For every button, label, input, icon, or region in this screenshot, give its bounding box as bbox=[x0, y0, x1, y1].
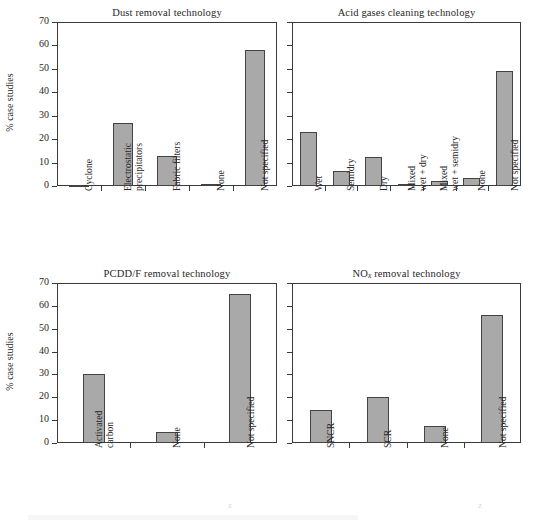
x-tick-mark bbox=[488, 186, 489, 191]
y-tick-mark bbox=[52, 116, 57, 117]
x-tick-mark bbox=[325, 186, 326, 191]
scan-artifact-band bbox=[28, 515, 358, 520]
y-tick-mark bbox=[287, 306, 292, 307]
y-tick-mark bbox=[287, 92, 292, 93]
y-tick-label: 10 bbox=[17, 156, 49, 167]
y-tick-label: 60 bbox=[17, 38, 49, 49]
x-tick-mark bbox=[101, 186, 102, 191]
y-tick-mark bbox=[52, 443, 57, 444]
y-tick-mark bbox=[52, 69, 57, 70]
x-category-label-bottom-left-0: Activated carbon bbox=[94, 411, 115, 448]
y-tick-mark bbox=[52, 306, 57, 307]
bar-bottom-right-3 bbox=[481, 315, 503, 443]
plot-area-bottom-left bbox=[57, 283, 277, 443]
x-category-label-top-left-4: Not specified bbox=[260, 140, 271, 191]
x-tick-mark bbox=[357, 186, 358, 191]
x-tick-mark bbox=[130, 443, 131, 448]
y-tick-mark bbox=[52, 329, 57, 330]
y-tick-mark bbox=[287, 352, 292, 353]
panel-title-bottom-left: PCDD/F removal technology bbox=[47, 268, 287, 279]
y-tick-label: 70 bbox=[17, 276, 49, 287]
x-tick-mark bbox=[423, 186, 424, 191]
y-tick-label: 60 bbox=[17, 299, 49, 310]
y-tick-mark bbox=[287, 397, 292, 398]
plot-area-top-left bbox=[57, 22, 277, 186]
x-category-label-top-right-0: Wet bbox=[314, 176, 325, 191]
bar-top-left-2 bbox=[157, 156, 177, 186]
x-tick-mark bbox=[464, 443, 465, 448]
y-tick-mark bbox=[287, 283, 292, 284]
x-tick-mark bbox=[349, 443, 350, 448]
x-category-label-top-left-1: Electrostatic precipitators bbox=[123, 143, 144, 191]
bar-top-right-4 bbox=[431, 181, 448, 186]
bar-top-right-6 bbox=[496, 71, 513, 186]
y-tick-label: 10 bbox=[17, 413, 49, 424]
x-tick-mark bbox=[233, 186, 234, 191]
figure-bar-chart-grid: Dust removal technology010203040506070% … bbox=[0, 0, 536, 525]
y-tick-mark bbox=[52, 397, 57, 398]
y-tick-mark bbox=[287, 45, 292, 46]
x-tick-mark bbox=[407, 443, 408, 448]
y-tick-label: 70 bbox=[17, 15, 49, 26]
bar-top-left-1 bbox=[113, 123, 133, 186]
y-tick-mark bbox=[287, 374, 292, 375]
y-tick-label: 50 bbox=[17, 322, 49, 333]
y-tick-label: 50 bbox=[17, 62, 49, 73]
y-axis-label-bottom-left: % case studies bbox=[4, 322, 15, 402]
y-tick-mark bbox=[52, 420, 57, 421]
bar-bottom-right-2 bbox=[424, 426, 446, 443]
y-tick-mark bbox=[52, 22, 57, 23]
x-category-label-bottom-right-3: Not specified bbox=[498, 397, 509, 448]
bar-bottom-right-1 bbox=[367, 397, 389, 443]
y-tick-mark bbox=[52, 163, 57, 164]
y-tick-mark bbox=[287, 420, 292, 421]
y-tick-label: 0 bbox=[17, 179, 49, 190]
y-tick-mark bbox=[287, 329, 292, 330]
x-category-label-top-right-5: None bbox=[477, 170, 488, 191]
bar-top-left-4 bbox=[245, 50, 265, 186]
y-tick-mark bbox=[287, 163, 292, 164]
bar-bottom-left-1 bbox=[156, 432, 178, 443]
bar-top-right-2 bbox=[365, 157, 382, 186]
x-category-label-bottom-right-0: SNCR bbox=[326, 423, 337, 448]
x-category-label-top-right-6: Not specified bbox=[510, 140, 521, 191]
scan-artifact-mark: z bbox=[478, 500, 482, 510]
x-tick-mark bbox=[204, 443, 205, 448]
y-tick-label: 40 bbox=[17, 345, 49, 356]
panel-title-top-left: Dust removal technology bbox=[47, 7, 287, 18]
panel-title-top-right: Acid gases cleaning technology bbox=[282, 7, 531, 18]
y-tick-label: 40 bbox=[17, 85, 49, 96]
y-tick-mark bbox=[287, 116, 292, 117]
bar-bottom-left-0 bbox=[83, 374, 105, 443]
y-tick-mark bbox=[52, 374, 57, 375]
y-tick-mark bbox=[52, 283, 57, 284]
chart-panel-bottom-left: PCDD/F removal technology010203040506070… bbox=[0, 0, 536, 525]
x-category-label-top-right-1: Semidry bbox=[346, 158, 357, 191]
y-tick-mark bbox=[287, 139, 292, 140]
bar-top-right-3 bbox=[398, 184, 415, 186]
x-tick-mark bbox=[145, 186, 146, 191]
y-tick-mark bbox=[287, 186, 292, 187]
y-tick-label: 30 bbox=[17, 109, 49, 120]
bar-top-right-1 bbox=[333, 171, 350, 186]
chart-panel-bottom-right: NOx removal technologySNCRSCRNoneNot spe… bbox=[0, 0, 536, 525]
x-category-label-bottom-left-1: None bbox=[172, 427, 183, 448]
bar-top-left-0 bbox=[69, 185, 89, 187]
y-tick-label: 30 bbox=[17, 367, 49, 378]
bar-top-left-3 bbox=[201, 184, 221, 186]
x-category-label-bottom-right-2: None bbox=[440, 427, 451, 448]
chart-panel-top-right: Acid gases cleaning technologyWetSemidry… bbox=[0, 0, 536, 525]
scan-artifact-mark: z bbox=[228, 500, 232, 510]
y-tick-mark bbox=[52, 139, 57, 140]
y-tick-mark bbox=[287, 443, 292, 444]
x-category-label-top-left-0: Cyclone bbox=[84, 159, 95, 191]
bar-bottom-right-0 bbox=[310, 410, 332, 443]
x-tick-mark bbox=[189, 186, 190, 191]
y-tick-label: 20 bbox=[17, 132, 49, 143]
y-tick-label: 20 bbox=[17, 390, 49, 401]
bar-top-right-0 bbox=[300, 132, 317, 186]
y-tick-mark bbox=[52, 92, 57, 93]
y-tick-mark bbox=[52, 45, 57, 46]
x-category-label-top-left-2: Fabric filters bbox=[172, 142, 183, 191]
bar-bottom-left-2 bbox=[229, 294, 251, 443]
